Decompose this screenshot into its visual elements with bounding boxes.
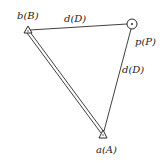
label-p: p(P) xyxy=(135,36,156,47)
edge-p-a xyxy=(104,29,131,131)
survey-diagram: b(B) d(D) p(P) d(D) a(A) xyxy=(0,0,164,164)
label-d-right: d(D) xyxy=(122,64,144,75)
point-p-circle-icon xyxy=(127,19,137,29)
label-a: a(A) xyxy=(96,144,117,155)
label-d-top: d(D) xyxy=(64,13,86,24)
edge-b-a-double xyxy=(27,32,104,133)
label-b: b(B) xyxy=(17,10,39,21)
edge-b-p xyxy=(30,24,127,30)
